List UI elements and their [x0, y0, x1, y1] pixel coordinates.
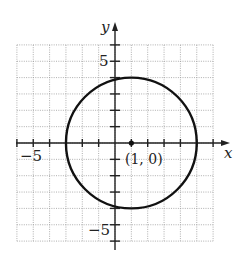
center-point — [129, 140, 134, 145]
y-tick-label-neg5: −5 — [88, 221, 110, 239]
center-point-label: (1, 0) — [125, 151, 163, 167]
x-axis-label: x — [224, 144, 233, 162]
x-tick-label-neg5: −5 — [20, 147, 42, 165]
y-axis-arrow-icon — [112, 22, 118, 31]
y-axis-label: y — [100, 18, 110, 36]
coordinate-plane: x y −5 5 −5 (1, 0) — [0, 0, 243, 260]
y-tick-label-5: 5 — [99, 52, 109, 70]
